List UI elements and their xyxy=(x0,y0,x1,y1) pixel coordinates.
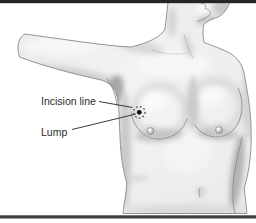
right-nipple-highlight xyxy=(148,129,150,131)
left-nipple-highlight xyxy=(217,128,219,130)
lump-label: Lump xyxy=(41,126,67,138)
right-nipple xyxy=(147,128,154,135)
bottom-border-bar xyxy=(0,215,256,218)
medical-illustration: Incision line Lump xyxy=(0,0,256,223)
left-nipple xyxy=(216,127,223,134)
page: Incision line Lump xyxy=(0,0,256,223)
incision-line-label: Incision line xyxy=(41,95,96,107)
lump-dot xyxy=(137,110,142,115)
top-border-bar xyxy=(0,0,256,3)
